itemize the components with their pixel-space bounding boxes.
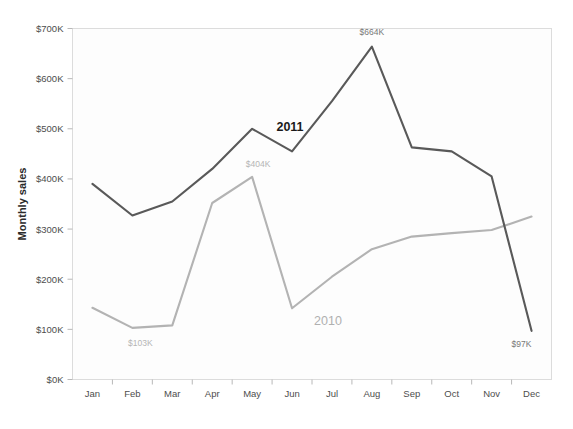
series-label-2010: 2010 [314,314,342,328]
x-axis-tick-label: Feb [124,388,140,399]
series-label-2011: 2011 [276,120,303,134]
y-axis-tick-label: $100K [36,324,64,335]
x-axis-tick-label: Sep [403,388,420,399]
x-axis-tick-label: Jun [284,388,299,399]
x-axis-tick-label: May [243,388,261,399]
y-axis-tick-label: $700K [36,23,64,34]
chart-canvas: $0K$100K$200K$300K$400K$500K$600K$700K J… [0,0,573,429]
x-axis-tick-label: Apr [205,388,220,399]
y-axis-tick-label: $200K [36,274,64,285]
annotation-may-2010: $404K [246,159,271,169]
x-axis-tick-label: Mar [164,388,180,399]
annotation-aug-2011: $664K [360,27,385,37]
x-axis-tick-label: Jul [326,388,338,399]
annotation-feb-2010: $103K [128,338,153,348]
x-axis-tick-label: Dec [523,388,540,399]
x-axis-tick-label: Oct [444,388,459,399]
x-axis-tick-label: Jan [85,388,100,399]
y-axis-tick-label: $0K [47,374,65,385]
y-axis-tick-label: $500K [36,123,64,134]
y-axis-tick-label: $300K [36,224,64,235]
x-axis-tick-label: Nov [483,388,500,399]
y-axis-tick-label: $600K [36,73,64,84]
y-axis-title: Monthly sales [16,168,28,241]
line-chart: $0K$100K$200K$300K$400K$500K$600K$700K J… [0,0,573,429]
y-axis-tick-label: $400K [36,173,64,184]
annotation-dec-2011: $97K [512,339,532,349]
x-axis-tick-label: Aug [363,388,380,399]
